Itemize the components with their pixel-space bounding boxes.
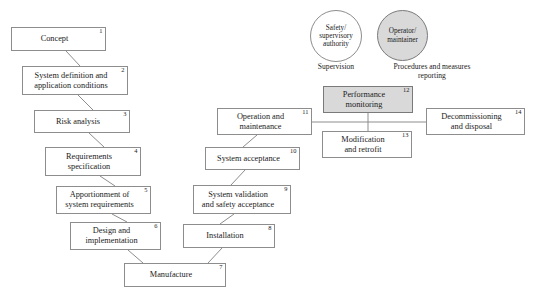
node-number: 11 (302, 109, 308, 115)
node-number: 7 (219, 264, 222, 270)
node-label: Concept (41, 34, 69, 44)
node-design-and-implementation[interactable]: Design and implementation 6 (70, 222, 161, 250)
actor-safety-supervisory-authority[interactable]: Safety/ supervisory authority (310, 10, 362, 62)
link-9-10 (231, 170, 245, 185)
node-number: 2 (121, 67, 124, 73)
node-label: Design and implementation (85, 226, 137, 245)
node-decommissioning-and-disposal[interactable]: Decommissioning and disposal 14 (426, 108, 525, 135)
node-label: Installation (206, 231, 243, 241)
node-performance-monitoring[interactable]: Performance monitoring 12 (323, 86, 413, 113)
node-number: 12 (403, 87, 409, 93)
link-2-3 (78, 95, 93, 110)
node-label: Decommissioning and disposal (441, 112, 501, 131)
link-4-5 (100, 176, 115, 186)
actor-label: Operator/ maintainer (387, 27, 418, 43)
node-risk-analysis[interactable]: Risk analysis 3 (34, 110, 130, 133)
node-system-acceptance[interactable]: System acceptance 10 (205, 147, 300, 170)
node-requirements-specification[interactable]: Requirements specification 4 (45, 147, 141, 176)
node-label: Apportionment of system requirements (65, 190, 133, 209)
node-label: Operation and maintenance (237, 112, 284, 131)
node-number: 3 (123, 111, 126, 117)
caption-supervision: Supervision (300, 63, 372, 72)
node-number: 9 (284, 186, 287, 192)
actor-label: Safety/ supervisory authority (319, 24, 353, 48)
node-label: Requirements specification (66, 152, 112, 171)
lifecycle-diagram: Concept 1 System definition and applicat… (0, 0, 535, 301)
node-number: 1 (99, 28, 102, 34)
node-label: System acceptance (217, 154, 280, 164)
link-5-6 (112, 214, 127, 222)
node-concept[interactable]: Concept 1 (11, 27, 106, 51)
node-apportionment-of-system-requirements[interactable]: Apportionment of system requirements 5 (56, 186, 151, 214)
node-number: 8 (268, 225, 271, 231)
node-label: System validation and safety acceptance (202, 190, 274, 209)
link-10-11 (243, 135, 257, 147)
node-system-validation-and-safety-acceptance[interactable]: System validation and safety acceptance … (193, 185, 291, 214)
node-operation-and-maintenance[interactable]: Operation and maintenance 11 (217, 108, 312, 135)
node-number: 5 (144, 187, 147, 193)
node-number: 14 (515, 109, 521, 115)
node-manufacture[interactable]: Manufacture 7 (124, 263, 226, 287)
node-label: Manufacture (150, 270, 192, 280)
link-1-2 (66, 51, 80, 66)
link-7-8 (208, 248, 222, 263)
actor-operator-maintainer[interactable]: Operator/ maintainer (377, 10, 428, 61)
node-label: Modification and retrofit (341, 135, 384, 154)
node-number: 6 (154, 223, 157, 229)
link-3-4 (89, 133, 104, 147)
node-label: Risk analysis (56, 117, 100, 127)
node-label: Performance monitoring (343, 90, 385, 109)
node-label: System definition and application condit… (34, 71, 108, 90)
node-number: 4 (134, 148, 137, 154)
caption-procedures-and-measures-reporting: Procedures and measures reporting (372, 63, 492, 81)
link-6-7 (128, 250, 143, 263)
node-system-definition[interactable]: System definition and application condit… (22, 66, 128, 95)
node-number: 10 (290, 148, 296, 154)
link-8-9 (220, 214, 234, 224)
node-installation[interactable]: Installation 8 (183, 224, 275, 248)
node-number: 13 (402, 132, 408, 138)
node-modification-and-retrofit[interactable]: Modification and retrofit 13 (322, 131, 412, 158)
